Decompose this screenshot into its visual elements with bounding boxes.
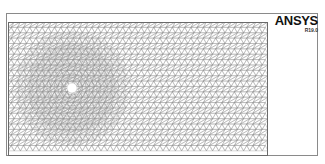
mesh-plot[interactable] xyxy=(8,22,268,156)
ansys-logo: ANSYS R19.0 xyxy=(275,14,318,33)
circular-hole xyxy=(67,83,77,93)
logo-title: ANSYS xyxy=(275,14,318,27)
